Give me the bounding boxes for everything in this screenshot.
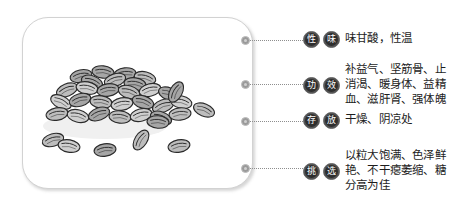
grain-seeds-pile-illustration: [23, 18, 253, 189]
badge-char-cun: 存: [303, 112, 320, 129]
leader-line-gongxiao: [250, 84, 303, 86]
badge-pair-gongxiao: 功 效: [303, 77, 340, 94]
info-text-xingwei: 味甘酸，性温: [345, 31, 412, 46]
badge-char-xuan: 选: [323, 163, 340, 180]
badge-pair-cunfang: 存 放: [303, 112, 340, 129]
info-row-xingwei: 性 味 味甘酸，性温: [303, 31, 412, 48]
info-row-cunfang: 存 放 干燥、阴凉处: [303, 112, 412, 129]
badge-char-wei: 味: [323, 31, 340, 48]
info-text-gongxiao: 补益气、坚筋骨、止 消渴、暖身体、益精 血、滋肝肾、强体魄: [345, 62, 446, 107]
badge-char-xiao: 效: [323, 77, 340, 94]
badge-pair-tiaoxuan: 挑 选: [303, 163, 340, 180]
info-text-cunfang: 干燥、阴凉处: [345, 112, 412, 127]
leader-line-tiaoxuan: [250, 168, 303, 170]
badge-char-tiao: 挑: [303, 163, 320, 180]
info-text-tiaoxuan: 以粒大饱满、色泽鲜 艳、不干瘪萎缩、糖 分高为佳: [345, 148, 446, 193]
badge-pair-xingwei: 性 味: [303, 31, 340, 48]
anchor-dot-gongxiao: [241, 80, 250, 89]
anchor-dot-xingwei: [241, 36, 250, 45]
badge-char-gong: 功: [303, 77, 320, 94]
badge-char-xing: 性: [303, 31, 320, 48]
info-row-tiaoxuan: 挑 选 以粒大饱满、色泽鲜 艳、不干瘪萎缩、糖 分高为佳: [303, 148, 446, 193]
illustration-card: [22, 17, 253, 189]
info-row-gongxiao: 功 效 补益气、坚筋骨、止 消渴、暖身体、益精 血、滋肝肾、强体魄: [303, 62, 446, 107]
infographic-page: 性 味 味甘酸，性温 功 效 补益气、坚筋骨、止 消渴、暖身体、益精 血、滋肝肾…: [0, 0, 473, 204]
anchor-dot-tiaoxuan: [241, 164, 250, 173]
anchor-dot-cunfang: [241, 117, 250, 126]
leader-line-cunfang: [250, 121, 303, 123]
leader-line-xingwei: [250, 40, 303, 42]
badge-char-fang: 放: [323, 112, 340, 129]
